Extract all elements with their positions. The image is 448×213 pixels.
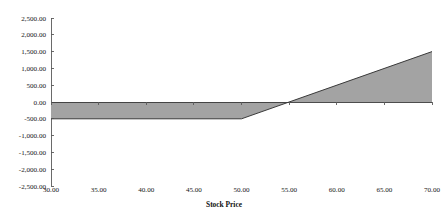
y-axis-tick-label: 2,500.00	[21, 15, 46, 23]
y-axis-tick-label: 0.00	[34, 99, 47, 107]
chart-plot-area: 2,500.002,000.001,500.001,000.00500.000.…	[0, 0, 448, 213]
x-axis-tick-label: 50.00	[234, 186, 250, 194]
x-axis-tick-label: 60.00	[329, 186, 345, 194]
x-axis-tick-label: 65.00	[376, 186, 392, 194]
x-axis-tick-label: 40.00	[138, 186, 154, 194]
payoff-chart: 2,500.002,000.001,500.001,000.00500.000.…	[0, 0, 448, 213]
payoff-area-fill	[51, 52, 432, 119]
y-axis-tick-label: 500.00	[26, 82, 46, 90]
x-axis-tick-label: 55.00	[281, 186, 297, 194]
y-axis-tick-labels: 2,500.002,000.001,500.001,000.00500.000.…	[19, 15, 47, 191]
x-axis-tick-label: 35.00	[91, 186, 107, 194]
y-axis-tick-label: -500.00	[24, 115, 46, 123]
x-axis-title: Stock Price	[206, 200, 243, 209]
x-axis-tick-label: 70.00	[424, 186, 440, 194]
x-axis-tick-label: 45.00	[186, 186, 202, 194]
y-axis-tick-label: -2,000.00	[19, 166, 47, 174]
y-axis-tick-label: 2,000.00	[21, 31, 46, 39]
y-axis-tick-label: 1,500.00	[21, 48, 46, 56]
y-axis-tick-label: -1,000.00	[19, 132, 47, 140]
x-axis-tick-label: 30.00	[43, 186, 59, 194]
y-axis-tick-label: -1,500.00	[19, 149, 47, 157]
x-axis-tick-labels: 30.0035.0040.0045.0050.0055.0060.0065.00…	[43, 186, 440, 194]
y-axis-tick-label: 1,000.00	[21, 65, 46, 73]
